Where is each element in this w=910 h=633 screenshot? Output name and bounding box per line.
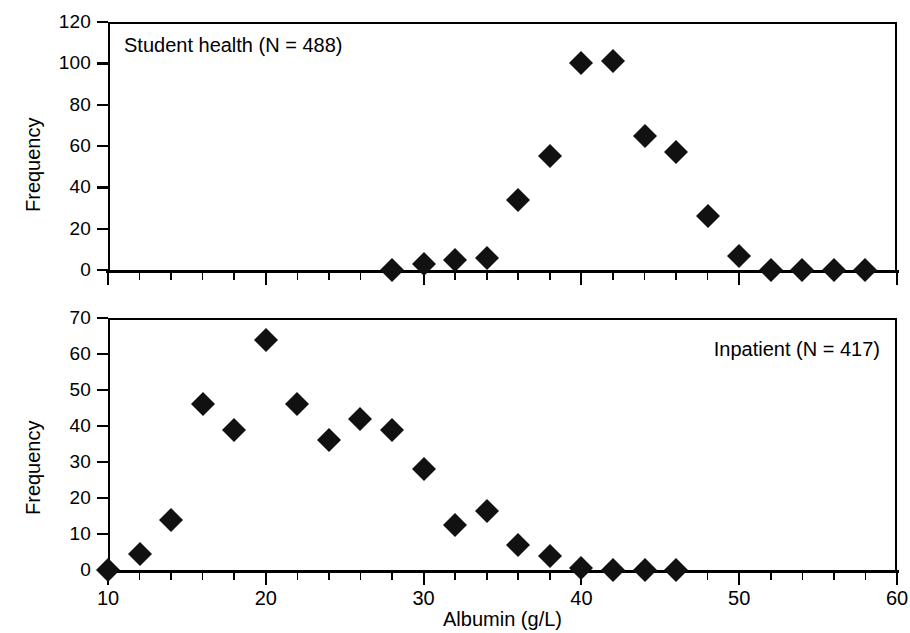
x-tick-label-50: 50 xyxy=(709,588,769,608)
x-tick-36 xyxy=(517,572,519,580)
x-tick-50 xyxy=(738,272,740,285)
x-tick-60 xyxy=(896,272,898,285)
x-tick-26 xyxy=(360,572,362,580)
x-tick-18 xyxy=(233,572,235,580)
x-tick-label-30: 30 xyxy=(394,588,454,608)
x-tick-34 xyxy=(486,572,488,580)
y-tick-label-20: 20 xyxy=(36,219,91,238)
panel-annotation-student-health: Student health (N = 488) xyxy=(124,34,342,57)
x-tick-32 xyxy=(454,272,456,280)
y-tick-label-60: 60 xyxy=(36,344,91,363)
x-tick-12 xyxy=(139,572,141,580)
x-tick-34 xyxy=(486,272,488,280)
x-tick-36 xyxy=(517,272,519,280)
y-tick-100 xyxy=(97,62,108,64)
x-tick-56 xyxy=(833,572,835,580)
x-tick-16 xyxy=(202,572,204,580)
y-tick-label-40: 40 xyxy=(36,416,91,435)
x-tick-46 xyxy=(675,272,677,280)
x-tick-20 xyxy=(265,272,267,285)
x-tick-label-10: 10 xyxy=(78,588,138,608)
x-tick-22 xyxy=(297,572,299,580)
y-tick-label-70: 70 xyxy=(36,308,91,327)
y-tick-70 xyxy=(97,317,108,319)
x-tick-48 xyxy=(707,572,709,580)
y-tick-60 xyxy=(97,353,108,355)
y-tick-0 xyxy=(97,269,108,271)
x-tick-60 xyxy=(896,572,898,585)
x-tick-14 xyxy=(170,572,172,580)
x-tick-24 xyxy=(328,272,330,280)
y-tick-10 xyxy=(97,533,108,535)
x-tick-42 xyxy=(612,272,614,280)
x-tick-26 xyxy=(360,272,362,280)
y-tick-label-120: 120 xyxy=(36,12,91,31)
y-tick-label-30: 30 xyxy=(36,452,91,471)
x-axis-line xyxy=(106,570,899,573)
x-tick-label-20: 20 xyxy=(236,588,296,608)
y-tick-label-40: 40 xyxy=(36,177,91,196)
y-tick-label-10: 10 xyxy=(36,524,91,543)
x-tick-48 xyxy=(707,272,709,280)
y-tick-label-20: 20 xyxy=(36,488,91,507)
y-tick-40 xyxy=(97,186,108,188)
y-tick-20 xyxy=(97,228,108,230)
y-tick-label-50: 50 xyxy=(36,380,91,399)
x-tick-38 xyxy=(549,272,551,280)
x-tick-12 xyxy=(139,272,141,280)
y-tick-label-0: 0 xyxy=(36,260,91,279)
x-tick-14 xyxy=(170,272,172,280)
x-tick-58 xyxy=(865,572,867,580)
y-tick-40 xyxy=(97,425,108,427)
y-tick-60 xyxy=(97,145,108,147)
x-tick-20 xyxy=(265,572,267,585)
x-tick-30 xyxy=(423,572,425,585)
y-tick-20 xyxy=(97,497,108,499)
x-tick-44 xyxy=(644,272,646,280)
y-tick-label-100: 100 xyxy=(36,53,91,72)
y-tick-label-0: 0 xyxy=(36,560,91,579)
x-tick-32 xyxy=(454,572,456,580)
x-tick-label-60: 60 xyxy=(867,588,910,608)
x-tick-10 xyxy=(107,272,109,285)
chart-panel-student-health: Frequency Student health (N = 488) 02040… xyxy=(0,0,910,300)
y-tick-50 xyxy=(97,389,108,391)
chart-panel-inpatient: Frequency Inpatient (N = 417) Albumin (g… xyxy=(0,300,910,633)
plot-frame-top xyxy=(108,22,897,270)
x-tick-16 xyxy=(202,272,204,280)
y-tick-120 xyxy=(97,21,108,23)
x-tick-54 xyxy=(802,572,804,580)
x-tick-52 xyxy=(770,572,772,580)
x-tick-38 xyxy=(549,572,551,580)
y-tick-label-60: 60 xyxy=(36,136,91,155)
y-tick-30 xyxy=(97,461,108,463)
y-tick-80 xyxy=(97,104,108,106)
panel-annotation-inpatient: Inpatient (N = 417) xyxy=(714,338,880,361)
x-tick-22 xyxy=(297,272,299,280)
x-tick-18 xyxy=(233,272,235,280)
x-tick-24 xyxy=(328,572,330,580)
x-tick-50 xyxy=(738,572,740,585)
x-tick-label-40: 40 xyxy=(551,588,611,608)
x-tick-28 xyxy=(391,572,393,580)
y-axis-title-top: Frequency xyxy=(22,118,45,213)
y-tick-label-80: 80 xyxy=(36,95,91,114)
x-axis-title: Albumin (g/L) xyxy=(413,608,593,631)
x-tick-40 xyxy=(580,272,582,285)
